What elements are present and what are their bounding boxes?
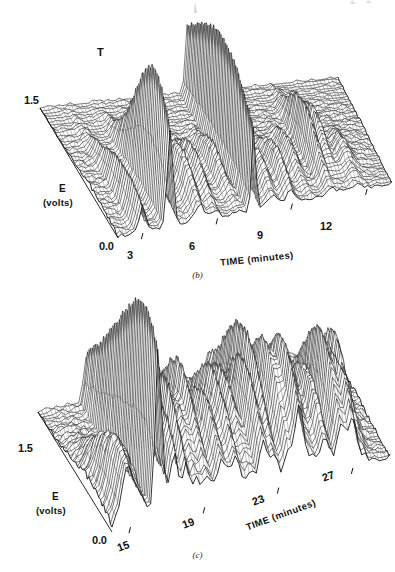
x-tick-b-0: 3 (127, 249, 133, 261)
x-tick-b-3: 12 (320, 220, 332, 232)
y-axis-unit-b: (volts) (43, 197, 73, 208)
x-tick-b-2: 9 (257, 229, 263, 241)
y-axis-max-label-c: 1.5 (18, 442, 33, 454)
surface-plot-c (0, 286, 395, 572)
figure-caption-c: (c) (0, 550, 395, 560)
figure-panel-b: 1.5 0.0 E (volts) 3 6 9 12 TIME (minutes… (0, 0, 395, 286)
x-tick-b-1: 6 (189, 240, 195, 252)
y-axis-max-label-b: 1.5 (24, 94, 39, 106)
figure-caption-b: (b) (0, 270, 395, 280)
y-axis-min-label-c: 0.0 (92, 534, 107, 546)
y-axis-unit-c: (volts) (36, 505, 66, 516)
peak-annotation-t-b: T (97, 46, 104, 58)
y-axis-title-c: E (52, 491, 59, 502)
figure-panel-c: 1.5 0.0 E (volts) 15 19 23 27 TIME (minu… (0, 286, 395, 572)
surface-plot-b (0, 0, 395, 286)
y-axis-title-b: E (59, 183, 66, 194)
y-axis-min-label-b: 0.0 (99, 240, 114, 252)
